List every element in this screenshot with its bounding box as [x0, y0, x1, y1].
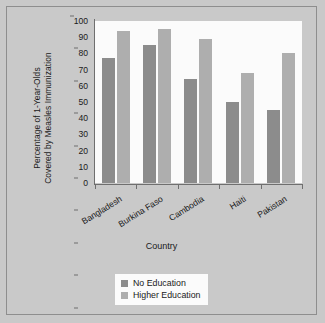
bar: [158, 29, 171, 183]
x-axis-title: Country: [7, 241, 316, 251]
bar: [282, 53, 295, 183]
x-tick-mark: [261, 184, 262, 189]
bar: [226, 102, 239, 183]
y-tick-label: 80: [78, 48, 95, 58]
legend-swatch-icon: [121, 292, 128, 299]
y-axis-title-line-1: Percentage of 1-Year-Olds: [32, 33, 43, 203]
y-tick-mark: [74, 113, 78, 114]
chart-figure: Percentage of 1-Year-Olds Covered by Mea…: [6, 6, 317, 315]
y-tick-mark: [74, 145, 78, 146]
y-tick-mark: [70, 16, 74, 17]
y-tick-label: 30: [78, 129, 95, 139]
legend-label: No Education: [133, 278, 186, 288]
bar: [199, 39, 212, 183]
bar-group: [178, 21, 219, 183]
bar: [143, 45, 156, 183]
y-tick-label: 10: [78, 162, 95, 172]
y-tick-mark: [74, 210, 78, 211]
legend-item: Higher Education: [121, 289, 200, 301]
y-axis-title: Percentage of 1-Year-Olds Covered by Mea…: [32, 33, 54, 203]
x-tick-mark: [219, 184, 220, 189]
y-tick-label: 0: [83, 178, 95, 188]
y-tick-label: 90: [78, 32, 95, 42]
bar: [184, 79, 197, 183]
legend-item: No Education: [121, 277, 200, 289]
y-tick-mark: [74, 178, 78, 179]
x-tick-mark: [136, 184, 137, 189]
x-tick-mark: [95, 184, 96, 189]
bar-group: [219, 21, 260, 183]
plot-area: 0102030405060708090100: [95, 21, 302, 183]
y-tick-label: 70: [78, 65, 95, 75]
y-tick-label: 50: [78, 97, 95, 107]
bar-group: [95, 21, 136, 183]
bar-group: [261, 21, 302, 183]
chart-legend: No EducationHigher Education: [115, 274, 208, 305]
y-tick-mark: [74, 80, 78, 81]
y-tick-label: 60: [78, 81, 95, 91]
y-tick-label: 20: [78, 146, 95, 156]
y-tick-label: 40: [78, 113, 95, 123]
x-tick-mark: [178, 184, 179, 189]
y-tick-mark: [74, 48, 78, 49]
y-tick-mark: [74, 275, 78, 276]
legend-label: Higher Education: [133, 290, 200, 300]
y-tick-label: 100: [74, 16, 95, 26]
bar: [267, 110, 280, 183]
x-axis-line: [94, 184, 303, 185]
bar-group: [136, 21, 177, 183]
bar: [102, 58, 115, 183]
legend-swatch-icon: [121, 280, 128, 287]
y-axis-title-line-2: Covered by Measles Immunization: [43, 33, 54, 203]
y-tick-mark: [74, 307, 78, 308]
x-tick-mark: [302, 184, 303, 189]
bar: [241, 73, 254, 183]
bar: [117, 31, 130, 183]
